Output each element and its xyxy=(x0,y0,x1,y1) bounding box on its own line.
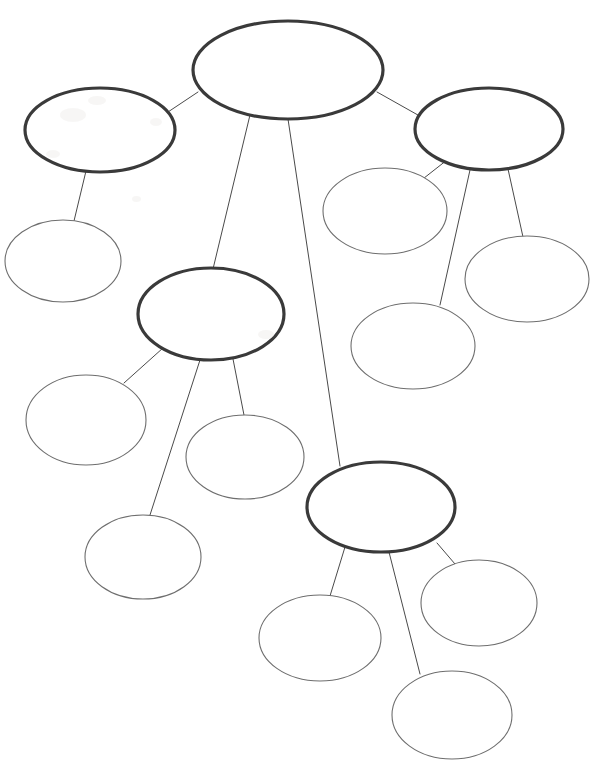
node-outline-b2[interactable] xyxy=(415,88,563,170)
connector-line-b4-to-b4c1 xyxy=(330,547,345,596)
connector-line-b2-to-b2c3 xyxy=(508,169,523,237)
map-node-b3c3-leaf[interactable] xyxy=(85,515,201,599)
connector-line-b1-to-b1c1 xyxy=(74,171,86,221)
map-node-b4c1-leaf[interactable] xyxy=(259,595,381,681)
map-node-b4-branch[interactable] xyxy=(307,462,455,552)
connector-line-b3-to-b3c1 xyxy=(124,348,163,383)
map-node-b1-branch[interactable] xyxy=(25,88,175,172)
map-node-b2c2-leaf[interactable] xyxy=(351,303,475,389)
node-layer xyxy=(5,21,589,759)
connector-line-root-to-b3 xyxy=(213,115,250,269)
map-node-b2c1-leaf[interactable] xyxy=(323,168,447,254)
node-outline-b1c1[interactable] xyxy=(5,220,121,302)
map-node-b3c2-leaf[interactable] xyxy=(186,415,304,499)
concept-map-canvas xyxy=(0,0,594,778)
map-node-b1c1-leaf[interactable] xyxy=(5,220,121,302)
node-outline-b4c3[interactable] xyxy=(392,671,512,759)
connector-line-root-to-b4 xyxy=(288,119,340,466)
node-outline-b2c1[interactable] xyxy=(323,168,447,254)
connector-line-b3-to-b3c2 xyxy=(233,359,244,415)
map-node-b2-branch[interactable] xyxy=(415,88,563,170)
node-outline-b3c2[interactable] xyxy=(186,415,304,499)
connector-line-b4-to-b4c3 xyxy=(389,552,420,674)
concept-map-svg xyxy=(0,0,594,778)
node-outline-b2c3[interactable] xyxy=(465,236,589,322)
node-outline-b4c1[interactable] xyxy=(259,595,381,681)
node-outline-b2c2[interactable] xyxy=(351,303,475,389)
node-outline-b3[interactable] xyxy=(138,268,284,360)
map-node-b4c3-leaf[interactable] xyxy=(392,671,512,759)
node-outline-b4[interactable] xyxy=(307,462,455,552)
map-node-b3-branch[interactable] xyxy=(138,268,284,360)
node-outline-b3c1[interactable] xyxy=(26,375,146,465)
map-node-root-root[interactable] xyxy=(193,21,383,119)
connector-line-root-to-b1 xyxy=(168,92,198,112)
node-outline-b4c2[interactable] xyxy=(421,560,537,646)
map-node-b4c2-leaf[interactable] xyxy=(421,560,537,646)
map-node-b3c1-leaf[interactable] xyxy=(26,375,146,465)
node-outline-root[interactable] xyxy=(193,21,383,119)
map-node-b2c3-leaf[interactable] xyxy=(465,236,589,322)
node-outline-b3c3[interactable] xyxy=(85,515,201,599)
node-outline-b1[interactable] xyxy=(25,88,175,172)
connector-line-b4-to-b4c2 xyxy=(437,543,455,564)
